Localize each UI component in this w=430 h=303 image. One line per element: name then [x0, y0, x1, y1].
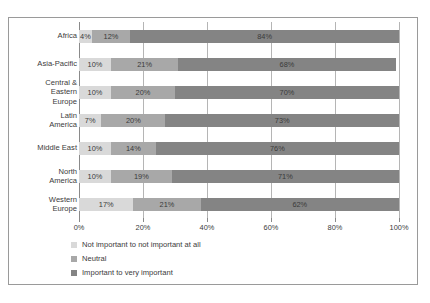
bar-segment[interactable]: 21%	[133, 198, 200, 211]
bar-segment[interactable]: 62%	[201, 198, 399, 211]
bar-row[interactable]: 7%20%73%	[79, 114, 399, 127]
bar-segment[interactable]: 20%	[111, 86, 175, 99]
bar-segment[interactable]: 7%	[79, 114, 101, 127]
legend-label: Important to very important	[82, 268, 173, 277]
clipped-header-text	[8, 0, 422, 3]
category-label-line: Middle East	[15, 143, 77, 152]
chart-legend: Not important to not important at allNeu…	[71, 238, 371, 280]
category-label: LatinAmerica	[15, 111, 77, 129]
x-tick-mark	[399, 218, 400, 222]
x-tick-label: 60%	[264, 223, 279, 232]
bar-segment[interactable]: 4%	[79, 30, 92, 43]
bar-segment[interactable]: 10%	[79, 58, 111, 71]
bar-segment[interactable]: 73%	[165, 114, 399, 127]
x-tick-mark	[79, 218, 80, 222]
legend-item[interactable]: Important to very important	[71, 266, 371, 279]
gridline-100%	[399, 22, 400, 218]
category-label-line: Asia-Pacific	[15, 59, 77, 68]
category-label: WesternEurope	[15, 195, 77, 213]
legend-item[interactable]: Not important to not important at all	[71, 238, 371, 251]
bar-row[interactable]: 10%20%70%	[79, 86, 399, 99]
category-label-line: Central &	[15, 78, 77, 87]
bar-segment[interactable]: 10%	[79, 86, 111, 99]
bar-segment[interactable]: 12%	[92, 30, 130, 43]
x-tick-label: 40%	[200, 223, 215, 232]
x-tick-label: 100%	[390, 223, 409, 232]
bar-row[interactable]: 10%21%68%	[79, 58, 399, 71]
category-label: NorthAmerica	[15, 167, 77, 185]
legend-label: Not important to not important at all	[82, 240, 201, 249]
bar-row[interactable]: 10%14%76%	[79, 142, 399, 155]
legend-swatch	[71, 270, 77, 276]
category-label-line: North	[15, 167, 77, 176]
bar-segment[interactable]: 21%	[111, 58, 178, 71]
category-label: Central &EasternEurope	[15, 78, 77, 106]
bar-segment[interactable]: 84%	[130, 30, 399, 43]
category-label-line: Europe	[15, 97, 77, 106]
x-tick-label: 80%	[328, 223, 343, 232]
chart-frame: AfricaAsia-PacificCentral &EasternEurope…	[8, 17, 418, 285]
category-label-line: America	[15, 120, 77, 129]
legend-swatch	[71, 242, 77, 248]
x-tick-mark	[335, 218, 336, 222]
plot-area: AfricaAsia-PacificCentral &EasternEurope…	[9, 22, 419, 218]
bar-segment[interactable]: 68%	[178, 58, 396, 71]
x-axis: 0%20%40%60%80%100%	[79, 218, 399, 234]
bar-segment[interactable]: 10%	[79, 142, 111, 155]
bar-segment[interactable]: 10%	[79, 170, 111, 183]
x-tick-mark	[143, 218, 144, 222]
category-label-line: Western	[15, 195, 77, 204]
bar-row[interactable]: 10%19%71%	[79, 170, 399, 183]
category-label-line: Europe	[15, 204, 77, 213]
category-label: Middle East	[15, 143, 77, 152]
x-tick-label: 0%	[74, 223, 85, 232]
bar-segment[interactable]: 19%	[111, 170, 172, 183]
bar-segment[interactable]: 14%	[111, 142, 156, 155]
category-label-line: America	[15, 176, 77, 185]
category-label-line: Latin	[15, 111, 77, 120]
category-label: Africa	[15, 31, 77, 40]
legend-item[interactable]: Neutral	[71, 252, 371, 265]
category-label: Asia-Pacific	[15, 59, 77, 68]
bars-region: 4%12%84%10%21%68%10%20%70%7%20%73%10%14%…	[79, 22, 399, 218]
x-tick-mark	[207, 218, 208, 222]
category-label-line: Eastern	[15, 87, 77, 96]
bar-segment[interactable]: 71%	[172, 170, 399, 183]
bar-row[interactable]: 17%21%62%	[79, 198, 399, 211]
bar-segment[interactable]: 70%	[175, 86, 399, 99]
category-label-line: Africa	[15, 31, 77, 40]
bar-row[interactable]: 4%12%84%	[79, 30, 399, 43]
bar-segment[interactable]: 17%	[79, 198, 133, 211]
x-tick-label: 20%	[136, 223, 151, 232]
bar-segment[interactable]: 76%	[156, 142, 399, 155]
legend-label: Neutral	[82, 254, 106, 263]
category-axis-labels: AfricaAsia-PacificCentral &EasternEurope…	[15, 22, 77, 218]
legend-swatch	[71, 256, 77, 262]
bar-segment[interactable]: 20%	[101, 114, 165, 127]
x-tick-mark	[271, 218, 272, 222]
